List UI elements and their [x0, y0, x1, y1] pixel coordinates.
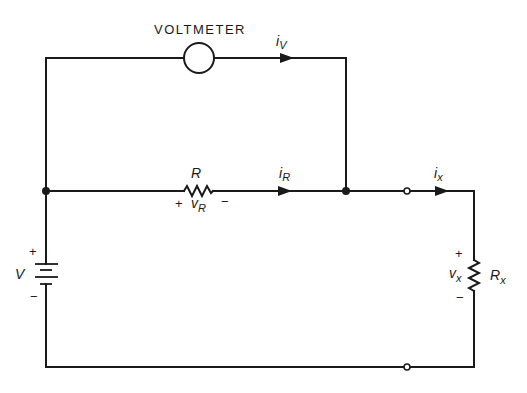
resistor-rx-minus: −: [456, 290, 464, 305]
junction-left-icon: [42, 187, 50, 195]
battery-minus: −: [30, 289, 38, 304]
terminal-top-icon: [404, 188, 410, 194]
voltmeter-label: VOLTMETER: [154, 22, 246, 37]
wire-bottom-return: [46, 284, 404, 367]
wires: [46, 58, 474, 367]
voltmeter-circle-icon: [184, 43, 214, 73]
resistor-rx-plus: +: [455, 246, 463, 261]
current-ix-label: ix: [434, 165, 443, 183]
battery-plus: +: [29, 244, 37, 259]
arrow-iv-icon: [280, 53, 294, 63]
resistor-r-plus: +: [175, 196, 183, 211]
resistor-rx-voltage-label: vx: [449, 265, 462, 284]
resistor-rx: Rx vx + −: [449, 246, 506, 305]
current-ir-label: iR: [279, 165, 290, 183]
arrow-ir-icon: [278, 186, 292, 196]
current-iv-label: iV: [276, 33, 288, 51]
resistor-r-label: R: [191, 165, 201, 181]
resistor-rx-label: Rx: [490, 267, 506, 286]
arrow-ix-icon: [435, 186, 449, 196]
wire-rx-bottom: [410, 291, 474, 367]
wire-to-rx: [410, 191, 474, 260]
resistor-r-minus: −: [221, 194, 229, 209]
resistor-rx-zigzag-icon: [469, 260, 479, 291]
resistor-r-zigzag-icon: [184, 186, 213, 196]
circuit-diagram: VOLTMETER iV iR ix R + vR − V + −: [0, 0, 527, 393]
battery-label: V: [15, 266, 26, 282]
junction-right-icon: [342, 187, 350, 195]
battery: V + −: [15, 244, 58, 304]
resistor-r-voltage-label: vR: [191, 195, 206, 214]
resistor-r: R + vR −: [175, 165, 229, 214]
voltmeter: VOLTMETER: [154, 22, 246, 73]
wire-voltmeter-left: [46, 58, 184, 190]
terminal-bottom-icon: [404, 364, 410, 370]
